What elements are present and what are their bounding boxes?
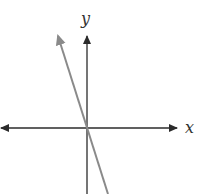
x-axis-label: x bbox=[185, 118, 194, 137]
graph-line bbox=[58, 36, 108, 194]
y-axis-label: y bbox=[80, 9, 91, 28]
coordinate-plane: x y bbox=[0, 0, 201, 194]
